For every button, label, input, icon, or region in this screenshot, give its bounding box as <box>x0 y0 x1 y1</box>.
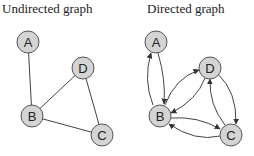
node-c: C <box>91 124 113 146</box>
svg-text:D: D <box>78 61 87 76</box>
node-d: D <box>72 57 94 79</box>
node-c: C <box>220 124 242 146</box>
svg-text:C: C <box>97 128 106 143</box>
svg-text:A: A <box>24 35 33 50</box>
node-b: B <box>149 105 171 127</box>
svg-text:B: B <box>156 109 165 124</box>
svg-text:B: B <box>28 109 37 124</box>
svg-text:C: C <box>226 128 235 143</box>
edge-b-to-c <box>171 118 220 129</box>
edge-b-to-d <box>165 70 199 105</box>
edge-b-to-a <box>147 53 153 105</box>
directed-nodes: A D B C <box>145 31 242 146</box>
edge-c-to-b <box>169 124 220 138</box>
edge-a-to-b <box>158 53 164 104</box>
undirected-nodes: A D B C <box>17 31 113 146</box>
node-a: A <box>17 31 39 53</box>
node-b: B <box>21 105 43 127</box>
edge-d-to-c <box>218 74 236 124</box>
svg-text:D: D <box>205 61 214 76</box>
graph-canvas: A D B C A D B C <box>0 0 254 156</box>
node-d: D <box>199 57 221 79</box>
edge-c-to-d <box>210 79 225 125</box>
node-a: A <box>145 31 167 53</box>
edge-d-to-b <box>171 78 205 113</box>
svg-text:A: A <box>152 35 161 50</box>
